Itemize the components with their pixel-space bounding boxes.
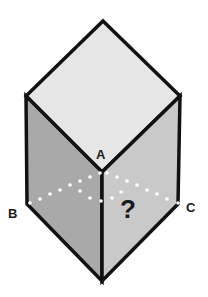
- label-b: B: [8, 206, 17, 221]
- label-c: C: [186, 200, 196, 215]
- cube-diagram: A B C ?: [0, 0, 208, 297]
- question-mark: ?: [120, 194, 136, 224]
- label-a: A: [96, 147, 106, 162]
